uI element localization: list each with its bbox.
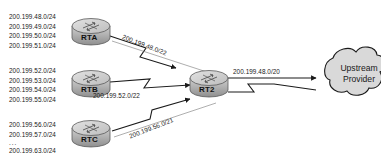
cloud-label-line2: Provider <box>343 74 375 84</box>
prefix-item: 200.199.57.0/24 <box>9 130 56 140</box>
prefix-item: 200.199.51.0/24 <box>9 41 56 51</box>
prefix-item: 200.199.63.0/24 <box>9 146 56 156</box>
cloud-label: Upstream Provider <box>330 63 381 85</box>
link-rtb-to-rt2 <box>110 79 190 88</box>
prefix-item: 200.199.50.0/24 <box>9 31 56 41</box>
prefix-list-rtc: 200.199.56.0/24 200.199.57.0/24 ... 200.… <box>9 120 56 156</box>
link-label-rtb-to-rt2: 200.199.52.0/22 <box>93 92 140 99</box>
router-label-rta: RTA <box>81 33 97 42</box>
prefix-item: 200.199.53.0/24 <box>9 76 56 86</box>
router-label-rtc: RTC <box>81 135 98 144</box>
prefix-item: 200.199.54.0/24 <box>9 85 56 95</box>
prefix-item: 200.199.48.0/24 <box>9 12 56 22</box>
cloud-label-line1: Upstream <box>340 63 377 73</box>
prefix-list-rta: 200.199.48.0/24 200.199.49.0/24 200.199.… <box>9 12 56 50</box>
prefix-item: 200.199.49.0/24 <box>9 22 56 32</box>
router-label-rt2: RT2 <box>199 85 215 94</box>
prefix-item: 200.199.52.0/24 <box>9 66 56 76</box>
prefix-item: 200.199.56.0/24 <box>9 120 56 130</box>
network-diagram-canvas <box>0 0 381 166</box>
link-rt2-to-upstream <box>228 78 316 92</box>
prefix-ellipsis: ... <box>9 139 56 146</box>
link-label-rt2-to-upstream: 200.199.48.0/20 <box>233 68 280 75</box>
prefix-item: 200.199.55.0/24 <box>9 95 56 105</box>
prefix-list-rtb: 200.199.52.0/24 200.199.53.0/24 200.199.… <box>9 66 56 104</box>
